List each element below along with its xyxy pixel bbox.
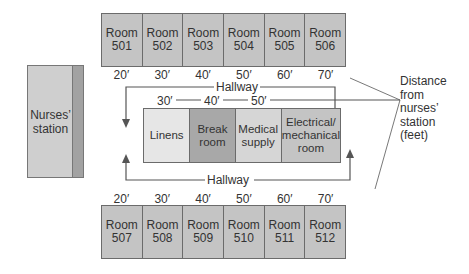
core-distance-50: 50′ xyxy=(248,94,270,108)
core-rooms: Linens Breakroom Medicalsupply Electrica… xyxy=(143,108,341,163)
room-509: Room509 xyxy=(183,206,224,258)
linens-room: Linens xyxy=(144,109,190,162)
bottom-distance-row: 20′ 30′ 40′ 50′ 60′ 70′ xyxy=(101,192,346,206)
distance-legend: Distance from nurses’ station (feet) xyxy=(400,75,447,143)
room-511: Room511 xyxy=(265,206,306,258)
bottom-room-row: Room507 Room508 Room509 Room510 Room511 … xyxy=(101,205,346,259)
hallway-bottom-label: Hallway xyxy=(205,173,251,187)
distance-label: 20′ xyxy=(101,192,142,206)
distance-label: 60′ xyxy=(264,192,305,206)
room-507: Room507 xyxy=(102,206,143,258)
electrical-mechanical-room: Electrical/mechanicalroom xyxy=(282,109,340,162)
distance-label: 70′ xyxy=(305,192,346,206)
break-room: Breakroom xyxy=(190,109,235,162)
distance-label: 50′ xyxy=(223,192,264,206)
distance-label: 40′ xyxy=(183,192,224,206)
room-508: Room508 xyxy=(143,206,184,258)
room-510: Room510 xyxy=(224,206,265,258)
hallway-top-label: Hallway xyxy=(214,80,260,94)
core-distance-30: 30′ xyxy=(154,94,176,108)
distance-label: 30′ xyxy=(142,192,183,206)
room-512: Room512 xyxy=(305,206,345,258)
core-distance-40: 40′ xyxy=(201,94,223,108)
medical-supply-room: Medicalsupply xyxy=(236,109,282,162)
